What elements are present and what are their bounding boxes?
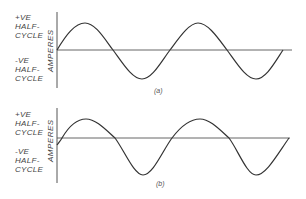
- positive-half-cycle-label-b: +VE HALF- CYCLE: [15, 110, 43, 137]
- sine-wave-b: [57, 119, 289, 175]
- caption-b: (b): [156, 180, 165, 187]
- amperes-axis-label-a: AMPERES: [46, 29, 55, 72]
- label-line: CYCLE: [15, 31, 43, 40]
- label-line: HALF-: [15, 156, 43, 165]
- amperes-axis-label-b: AMPERES: [46, 119, 55, 162]
- caption-a: (a): [154, 87, 163, 94]
- label-line: +VE: [15, 13, 43, 22]
- label-line: HALF-: [15, 119, 43, 128]
- sine-wave-a: [57, 23, 283, 79]
- label-line: HALF-: [15, 65, 43, 74]
- label-line: HALF-: [15, 22, 43, 31]
- label-line: CYCLE: [15, 165, 43, 174]
- label-line: CYCLE: [15, 74, 43, 83]
- label-line: -VE: [15, 147, 43, 156]
- label-line: CYCLE: [15, 128, 43, 137]
- negative-half-cycle-label-a: -VE HALF- CYCLE: [15, 56, 43, 83]
- negative-half-cycle-label-b: -VE HALF- CYCLE: [15, 147, 43, 174]
- label-line: +VE: [15, 110, 43, 119]
- positive-half-cycle-label-a: +VE HALF- CYCLE: [15, 13, 43, 40]
- label-line: -VE: [15, 56, 43, 65]
